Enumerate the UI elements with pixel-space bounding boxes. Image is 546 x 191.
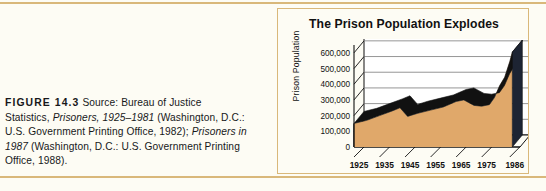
chart-panel: The Prison Population Explodes Prison Po… — [277, 8, 529, 174]
y-tick-mark — [354, 72, 364, 84]
chart-title: The Prison Population Explodes — [278, 17, 530, 31]
caption-italic-title-1: Prisoners, 1925–1981 — [53, 112, 155, 123]
y-tick-label: 300,000 — [320, 96, 350, 105]
x-tick-mark — [482, 147, 492, 157]
y-tick-label: 0 — [345, 143, 350, 152]
y-tick-label: 500,000 — [320, 65, 350, 74]
figure-page: FIGURE 14.3 Source: Bureau of Justice St… — [0, 0, 546, 191]
x-tick-label: 1975 — [477, 160, 496, 170]
x-tick-label: 1955 — [426, 160, 445, 170]
x-tick-mark — [354, 147, 364, 157]
x-tick-mark — [510, 147, 520, 157]
area-chart-plot: 0100,000200,000300,000400,000500,000600,… — [296, 39, 528, 171]
x-tick-label: 1945 — [401, 160, 420, 170]
x-tick-label: 1965 — [452, 160, 471, 170]
bottom-rule — [0, 176, 546, 178]
area-end-cap — [512, 40, 522, 147]
y-tick-label: 400,000 — [320, 80, 350, 89]
y-tick-mark — [354, 41, 364, 53]
x-tick-mark — [405, 147, 415, 157]
y-tick-label: 200,000 — [320, 112, 350, 121]
x-tick-mark — [380, 147, 390, 157]
y-tick-mark — [354, 57, 364, 69]
x-tick-label: 1925 — [350, 160, 369, 170]
caption-text-2: (Washington, D.C.: U.S. Government Print… — [5, 141, 240, 167]
figure-label: FIGURE 14.3 — [5, 97, 79, 108]
y-tick-label: 100,000 — [320, 127, 350, 136]
x-tick-label: 1935 — [375, 160, 394, 170]
x-tick-label: 1986 — [505, 160, 524, 170]
x-tick-mark — [456, 147, 466, 157]
x-tick-mark — [431, 147, 441, 157]
figure-caption: FIGURE 14.3 Source: Bureau of Justice St… — [5, 96, 247, 169]
y-tick-label: 600,000 — [320, 49, 350, 58]
y-tick-mark — [354, 88, 364, 100]
top-rule — [0, 2, 546, 4]
